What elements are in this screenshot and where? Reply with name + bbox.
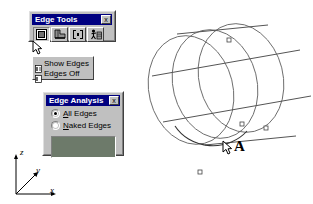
cylinder-top-silhouette — [177, 25, 268, 34]
mouse-cursor-viewport — [222, 140, 234, 156]
menu-item-show-edges[interactable]: Show Edges — [34, 58, 92, 68]
rebuild-edges-tool-button[interactable] — [87, 27, 104, 42]
radio-naked-edges-text: aked Edges — [69, 121, 111, 130]
radio-all-edges[interactable]: All Edges — [51, 109, 120, 118]
close-icon[interactable]: x — [109, 96, 119, 105]
radio-naked-edges-indicator[interactable] — [51, 121, 60, 130]
radio-naked-edges-label: Naked Edges — [63, 121, 111, 130]
edge-color-swatch[interactable] — [51, 136, 116, 158]
edge-tools-button-row — [32, 27, 112, 42]
edge-vertex-marker — [198, 170, 202, 174]
edge-vertex-marker — [240, 122, 244, 126]
menu-edge-off-icon — [35, 69, 42, 77]
cylinder-seam-lower — [163, 96, 311, 122]
cylinder-bottom-silhouette — [205, 136, 296, 145]
edge-tools-title: Edge Tools — [35, 14, 78, 25]
mouse-cursor-toolbar — [32, 40, 44, 56]
axis-label-y: y — [36, 166, 40, 175]
menu-item-edges-off-label: Edges Off — [44, 69, 79, 78]
edge-vertex-marker — [227, 38, 231, 42]
edge-analysis-title: Edge Analysis — [49, 95, 103, 106]
cylinder-near-cap — [137, 26, 245, 153]
radio-all-edges-label: All Edges — [63, 109, 97, 118]
radio-all-edges-indicator[interactable] — [51, 109, 60, 118]
split-edge-icon — [72, 29, 84, 40]
axis-y-line — [16, 174, 36, 194]
edge-tools-flyout-menu[interactable]: Show Edges Edges Off — [32, 56, 94, 80]
axis-label-x: x — [50, 186, 54, 195]
rebuild-edges-icon — [90, 29, 102, 40]
axis-label-z: z — [20, 148, 24, 157]
menu-item-edges-off[interactable]: Edges Off — [34, 68, 92, 78]
edge-vertex-marker — [264, 126, 268, 130]
menu-item-show-edges-label: Show Edges — [44, 59, 89, 68]
menu-edge-icon — [35, 59, 42, 67]
radio-naked-edges[interactable]: Naked Edges — [51, 121, 120, 130]
cylinder-mid-section — [161, 20, 269, 147]
edge-tools-window[interactable]: Edge Tools x — [28, 10, 116, 42]
edges-display-icon — [36, 29, 47, 40]
edge-tools-titlebar[interactable]: Edge Tools x — [32, 14, 112, 25]
close-icon[interactable]: x — [101, 15, 111, 24]
extract-edges-tool-button[interactable] — [51, 27, 68, 42]
radio-all-edges-text: ll Edges — [68, 109, 96, 118]
cylinder-seam-upper — [152, 50, 300, 76]
axis-z-arrow — [14, 154, 18, 159]
edge-analysis-titlebar[interactable]: Edge Analysis x — [46, 95, 120, 106]
edge-analysis-window[interactable]: Edge Analysis x All Edges Naked Edges — [42, 91, 124, 156]
viewport-annotation-a: A — [234, 139, 245, 154]
split-edge-tool-button[interactable] — [69, 27, 86, 42]
extract-edge-icon — [54, 29, 66, 40]
cylinder-far-cap — [187, 14, 295, 141]
